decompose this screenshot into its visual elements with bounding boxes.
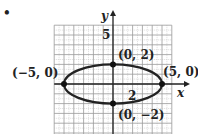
x-axis-label: x [176,86,185,100]
y-axis-label: y [100,9,109,23]
y-tick-label-5: 5 [102,28,110,42]
data-point [61,81,67,87]
data-point [110,61,116,67]
point-label-bottom: (0, −2) [118,108,164,122]
data-point [159,81,165,87]
point-label-right: (5, 0) [163,65,198,79]
point-label-top: (0, 2) [118,48,154,62]
data-point [110,101,116,107]
ellipse-plot: • y x 5 2 (0, 2) (5, 0) (−5, 0) (0, −2) [0,0,198,134]
problem-marker: • [3,6,11,20]
x-tick-label-2: 2 [128,89,136,103]
point-label-left: (−5, 0) [12,66,58,80]
